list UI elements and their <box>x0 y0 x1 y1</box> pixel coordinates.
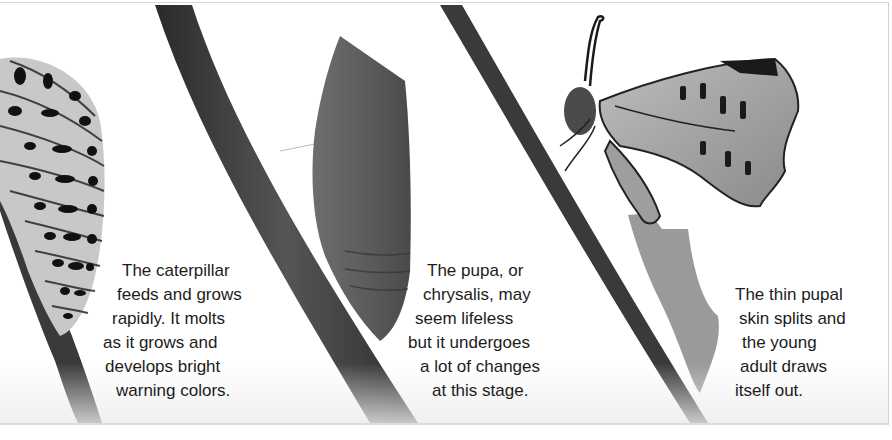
antenna <box>585 16 603 86</box>
caption-line: but it undergoes <box>408 331 530 355</box>
caption-line: The thin pupal <box>735 283 843 307</box>
caption-line: at this stage. <box>432 379 528 403</box>
caption-line: chrysalis, may <box>423 283 531 307</box>
caption-line: warning colors. <box>116 379 230 403</box>
silk-thread <box>280 144 315 151</box>
caption-line: seem lifeless <box>415 307 513 331</box>
caption-line: The caterpillar <box>122 259 230 283</box>
caterpillar <box>0 58 105 336</box>
caption-line: rapidly. It molts <box>112 307 225 331</box>
caption-line: feeds and grows <box>117 283 242 307</box>
caption-line: skin splits and <box>739 307 846 331</box>
caption-line: The pupa, or <box>427 259 523 283</box>
caption-line: adult draws <box>740 355 827 379</box>
caption-line: develops bright <box>105 355 220 379</box>
caption-line: the young <box>742 331 817 355</box>
caption-line: as it grows and <box>103 331 217 355</box>
butterfly-head <box>564 87 596 135</box>
caption-line: a lot of changes <box>420 355 540 379</box>
butterfly <box>560 16 798 223</box>
caption-line: itself out. <box>735 379 803 403</box>
